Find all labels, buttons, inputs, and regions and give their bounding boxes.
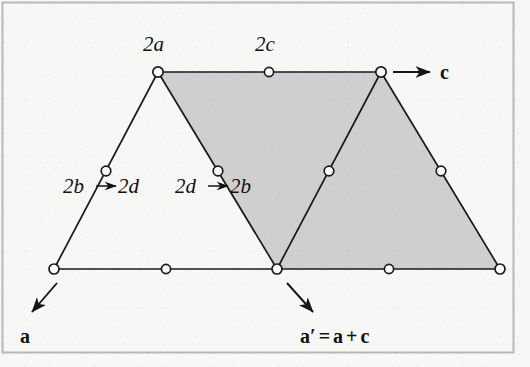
a-prime-mark: ′ [310,325,316,347]
a-prime-term-c: c [360,325,369,347]
node-bottom-right-mid [384,264,393,273]
label-vector-a-prime: a′=a+c [300,326,369,346]
node-center-right-mid [324,166,334,176]
node-left-mid [101,166,111,176]
node-top-left-apex [153,67,163,77]
label-vector-a: a [20,326,30,346]
a-prime-equals: = [316,325,333,347]
a-prime-term-a: a [333,325,343,347]
node-bottom-left [49,264,59,274]
label-2a: 2a [143,34,164,55]
node-top-right-apex [376,67,386,77]
node-bottom-right [495,264,505,274]
node-top-mid [264,67,273,76]
a-prime-base: a [300,325,310,347]
label-mid-map-to: 2b [230,176,251,197]
label-left-map-from: 2b [63,176,84,197]
label-left-map-to: 2d [118,176,139,197]
a-prime-plus: + [343,325,360,347]
lattice-figure: 2a 2c c 2b 2d 2d 2b a a′=a+c [0,0,530,367]
node-bottom-left-mid [161,264,170,273]
label-vector-c: c [440,62,449,82]
node-center-left-mid [213,166,223,176]
node-bottom-center [272,264,282,274]
node-right-mid [436,166,446,176]
label-mid-map-from: 2d [175,176,196,197]
label-2c: 2c [255,34,275,55]
